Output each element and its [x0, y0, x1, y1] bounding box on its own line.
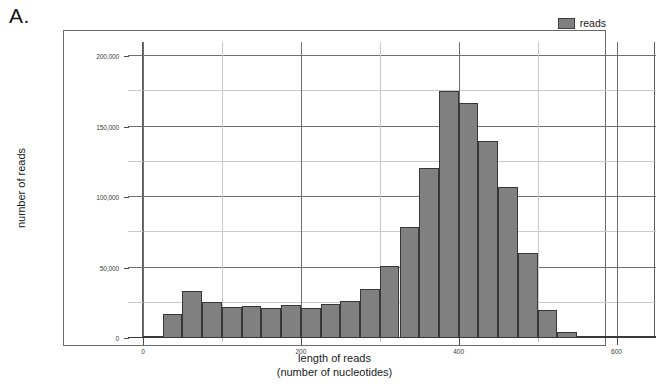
x-axis-tick-mark — [301, 338, 302, 345]
y-axis-tick-label: 100,000 — [96, 194, 119, 201]
histogram-bar — [439, 91, 459, 338]
histogram-bar — [498, 187, 518, 338]
y-axis-tick-mark — [124, 197, 129, 198]
gridline-vertical-minor — [538, 42, 539, 338]
x-axis-tick-mark-minor — [222, 338, 223, 342]
axis-zero-line — [128, 337, 656, 338]
y-axis-tick-label: 150,000 — [96, 123, 119, 130]
gridline-horizontal-major — [128, 196, 656, 197]
histogram-bar — [419, 168, 439, 338]
gridline-vertical-major — [617, 42, 618, 338]
x-axis-tick-label: 600 — [611, 348, 622, 355]
y-axis-tick-mark — [124, 268, 129, 269]
gridline-vertical-major — [143, 42, 144, 338]
y-axis-tick-mark — [124, 127, 129, 128]
histogram-bar — [321, 304, 341, 338]
legend-swatch-reads — [558, 18, 575, 29]
histogram-bar — [380, 266, 400, 338]
histogram-bar — [301, 308, 321, 338]
histogram-bar — [202, 302, 222, 338]
x-axis-tick-mark — [617, 338, 618, 345]
x-axis-tick-mark-minor — [538, 338, 539, 342]
histogram-bar — [163, 314, 183, 338]
histogram-bar — [478, 141, 498, 338]
x-axis-tick-mark — [459, 338, 460, 345]
histogram-bar — [360, 289, 380, 338]
legend-label-reads: reads — [580, 18, 606, 29]
panel-label: A. — [9, 5, 30, 26]
gridline-horizontal-minor — [128, 161, 656, 162]
y-axis-tick-label: 0 — [115, 335, 119, 342]
histogram-bar — [182, 291, 202, 338]
histogram-bar — [518, 253, 538, 338]
histogram-bar — [459, 103, 479, 338]
histogram-bar — [281, 305, 301, 338]
x-axis-title: length of reads (number of nucleotides) — [63, 352, 606, 380]
plot-frame: 050,000100,000150,000200,0000200400600 — [63, 30, 606, 346]
x-axis-title-line2: (number of nucleotides) — [63, 366, 606, 380]
x-axis-title-line1: length of reads — [298, 352, 371, 364]
y-axis-tick-label: 50,000 — [100, 264, 119, 271]
histogram-bar — [222, 307, 242, 338]
legend: reads — [558, 18, 606, 29]
gridline-horizontal-major — [128, 126, 656, 127]
x-axis-tick-mark-minor — [380, 338, 381, 342]
y-axis-title: number of reads — [15, 103, 27, 273]
gridline-horizontal-minor — [128, 231, 656, 232]
histogram-bar — [340, 301, 360, 338]
histogram-bar — [538, 310, 558, 338]
gridline-horizontal-minor — [128, 90, 656, 91]
histogram-bar — [242, 306, 262, 338]
plot-area: 050,000100,000150,000200,0000200400600 — [142, 42, 655, 338]
y-axis-tick-mark — [124, 338, 129, 339]
gridline-horizontal-major — [128, 55, 656, 56]
y-axis-tick-mark — [124, 56, 129, 57]
gridline-vertical-major — [301, 42, 302, 338]
y-axis-tick-label: 200,000 — [96, 53, 119, 60]
histogram-bar — [400, 227, 420, 338]
histogram-bar — [261, 308, 281, 338]
x-axis-tick-mark — [143, 338, 144, 345]
gridline-vertical-minor — [222, 42, 223, 338]
